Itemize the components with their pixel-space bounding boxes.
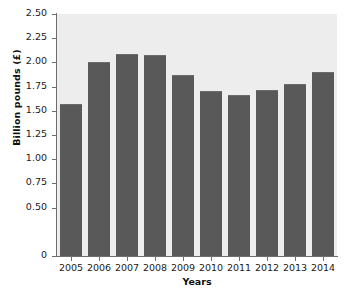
bar [88, 62, 110, 256]
x-tick-label: 2007 [113, 262, 141, 273]
bar [60, 104, 82, 256]
x-tick-mark [183, 257, 184, 261]
x-tick-label: 2012 [253, 262, 281, 273]
x-tick-label: 2009 [169, 262, 197, 273]
y-tick-label: 2.25 [26, 31, 47, 42]
x-tick-mark [155, 257, 156, 261]
bar [256, 90, 278, 256]
x-tick-label: 2010 [197, 262, 225, 273]
y-tick-label: 0.50 [26, 201, 47, 212]
bar-chart: Billion pounds (£) 2.502.252.001.751.501… [0, 0, 351, 293]
x-tick-mark [211, 257, 212, 261]
bars-layer [57, 14, 337, 256]
y-tick-label: 1.50 [26, 104, 47, 115]
x-tick-label: 2006 [85, 262, 113, 273]
y-axis-title: Billion pounds (£) [11, 28, 22, 168]
bar [200, 91, 222, 256]
x-tick-mark [99, 257, 100, 261]
y-tick-mark [52, 256, 57, 257]
bar [284, 84, 306, 256]
x-tick-mark [239, 257, 240, 261]
y-tick-label: 0.75 [26, 176, 47, 187]
x-tick-mark [323, 257, 324, 261]
x-tick-mark [71, 257, 72, 261]
bar [172, 75, 194, 256]
y-tick-label: 2.00 [26, 55, 47, 66]
y-tick-label: 1.25 [26, 128, 47, 139]
x-tick-mark [127, 257, 128, 261]
x-tick-mark [267, 257, 268, 261]
y-tick-label: 1.75 [26, 80, 47, 91]
y-tick-label: 2.50 [26, 7, 47, 18]
x-tick-label: 2013 [281, 262, 309, 273]
bar [312, 72, 334, 256]
bar [144, 55, 166, 256]
x-tick-label: 2005 [57, 262, 85, 273]
y-tick-label: 1.00 [26, 152, 47, 163]
x-tick-label: 2014 [309, 262, 337, 273]
bar [228, 95, 250, 256]
x-tick-label: 2011 [225, 262, 253, 273]
x-tick-mark [295, 257, 296, 261]
y-tick-label: 0 [41, 249, 47, 260]
x-tick-label: 2008 [141, 262, 169, 273]
x-axis-title: Years [57, 276, 337, 287]
bar [116, 54, 138, 256]
